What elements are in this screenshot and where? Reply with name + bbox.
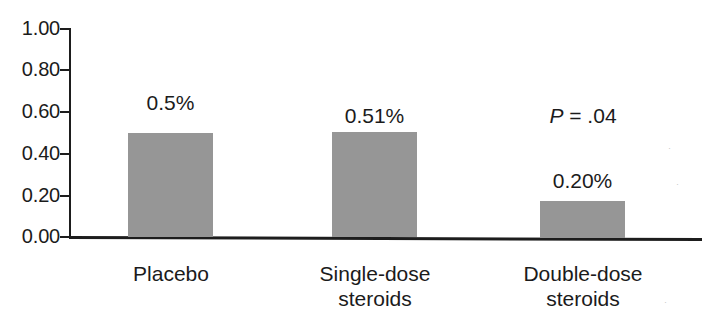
y-tick-label: 0.20 — [8, 185, 60, 205]
value-label-single-dose-steroids: 0.51% — [327, 105, 422, 126]
y-tick-mark — [60, 28, 69, 30]
y-axis-line — [69, 28, 71, 238]
y-tick-label: 0.00 — [8, 226, 60, 246]
category-label-single-dose-steroids: Single-dose steroids — [305, 262, 445, 312]
y-tick-label: 0.80 — [8, 59, 60, 79]
p-value-annotation: P = .04 — [528, 105, 638, 126]
category-label-placebo: Placebo — [112, 262, 230, 287]
bar-single-dose-steroids[interactable] — [332, 132, 417, 237]
y-tick-label: 0.60 — [8, 101, 60, 121]
y-tick-label: 1.00 — [8, 18, 60, 38]
y-tick-mark — [60, 111, 69, 113]
p-value-symbol: P — [549, 104, 563, 127]
y-tick-mark — [60, 195, 69, 197]
bar-placebo[interactable] — [128, 133, 213, 237]
y-tick-mark — [60, 236, 69, 238]
y-tick-mark — [60, 69, 69, 71]
y-tick-mark — [60, 153, 69, 155]
scan-speckle-icon: · — [668, 144, 671, 153]
category-label-double-dose-steroids: Double-dose steroids — [513, 262, 653, 312]
bar-chart: 1.00 0.80 0.60 0.40 0.20 0.00 0.5% 0.51%… — [0, 0, 711, 322]
bar-double-dose-steroids[interactable] — [540, 201, 625, 238]
p-value-number: = .04 — [563, 104, 616, 127]
y-tick-label: 0.40 — [8, 143, 60, 163]
value-label-double-dose-steroids: 0.20% — [535, 170, 630, 191]
value-label-placebo: 0.5% — [128, 92, 213, 113]
scan-speckle-icon: · — [664, 298, 667, 307]
scan-speckle-icon: · — [676, 180, 679, 189]
